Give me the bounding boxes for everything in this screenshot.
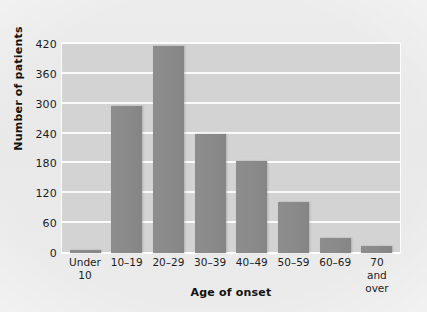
- bar-slot: [110, 44, 144, 253]
- x-axis-tick-label-line: 60–69: [318, 256, 352, 269]
- x-axis-tick-label-line: 10: [68, 269, 102, 282]
- x-axis-tick-label-line: 30–39: [193, 256, 227, 269]
- bar-chart-figure: Number of patients 060120180240300360420…: [0, 0, 427, 312]
- y-axis-tick-label: 300: [3, 97, 57, 110]
- bar[interactable]: [361, 246, 392, 253]
- bar[interactable]: [278, 202, 309, 253]
- bar-slot: [68, 44, 102, 253]
- y-axis-tick-labels: 060120180240300360420: [0, 44, 57, 253]
- bar[interactable]: [111, 106, 142, 253]
- bar-slot: [235, 44, 269, 253]
- bar[interactable]: [70, 250, 101, 253]
- bar-slot: [277, 44, 311, 253]
- x-axis-tick-label-line: 50–59: [277, 256, 311, 269]
- bar-slot: [151, 44, 185, 253]
- bar[interactable]: [195, 134, 226, 253]
- plot-area: [62, 44, 400, 253]
- bar[interactable]: [236, 161, 267, 253]
- x-axis-tick-label-line: 10–19: [110, 256, 144, 269]
- bar-slot: [193, 44, 227, 253]
- bar[interactable]: [153, 46, 184, 254]
- bar-slot: [318, 44, 352, 253]
- bar-slot: [360, 44, 394, 253]
- y-axis-tick-label: 420: [3, 38, 57, 51]
- x-axis-tick-label-line: 40–49: [235, 256, 269, 269]
- y-axis-tick-label: 60: [3, 217, 57, 230]
- y-axis-tick-label: 180: [3, 157, 57, 170]
- bar-series: [62, 44, 400, 253]
- y-axis-tick-label: 120: [3, 187, 57, 200]
- x-axis-tick-label-line: 20–29: [151, 256, 185, 269]
- x-axis-title: Age of onset: [62, 286, 400, 299]
- y-axis-tick-label: 360: [3, 67, 57, 80]
- y-axis-tick-label: 0: [3, 247, 57, 260]
- x-axis-tick-label-line: Under: [68, 256, 102, 269]
- bar[interactable]: [320, 238, 351, 253]
- plot-area-wrapper: [62, 44, 400, 253]
- x-axis-tick-label-line: 70 and: [360, 256, 394, 282]
- y-axis-tick-label: 240: [3, 127, 57, 140]
